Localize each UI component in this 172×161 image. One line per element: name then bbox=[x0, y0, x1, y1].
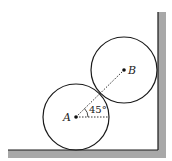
point-a bbox=[74, 115, 78, 119]
label-a: A bbox=[62, 111, 71, 124]
floor bbox=[8, 150, 166, 158]
label-angle: 45° bbox=[89, 104, 107, 115]
corner-cylinders-diagram: A B 45° bbox=[0, 0, 172, 161]
label-b: B bbox=[127, 64, 136, 77]
wall bbox=[158, 12, 166, 158]
angle-arc bbox=[85, 109, 89, 118]
point-b bbox=[122, 68, 126, 72]
